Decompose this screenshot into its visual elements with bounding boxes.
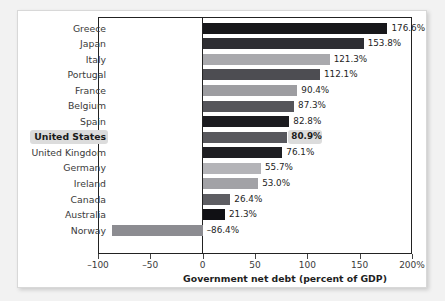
x-tick (255, 254, 256, 259)
bar-row: United States80.9% (18, 129, 428, 145)
chart-figure-panel: Greece176.6%Japan153.8%Italy121.3%Portug… (17, 10, 427, 288)
bar (203, 147, 283, 158)
bar-value-label: 90.4% (301, 83, 329, 99)
bar (203, 178, 258, 189)
bar-row: United Kingdom76.1% (18, 145, 428, 161)
bar (203, 194, 231, 205)
bar-value-label: –86.4% (207, 223, 239, 239)
bar (203, 69, 320, 80)
x-tick (150, 254, 151, 259)
category-label: Norway (0, 223, 106, 239)
bar-row: France90.4% (18, 83, 428, 99)
bar-row: Belgium87.3% (18, 98, 428, 114)
x-tick (98, 254, 99, 259)
bar-value-label: 80.9% (291, 129, 322, 145)
x-tick-label: 100 (299, 260, 316, 270)
category-label: France (0, 83, 106, 99)
bar (203, 23, 388, 34)
bar-row: Portugal112.1% (18, 67, 428, 83)
x-tick (307, 254, 308, 259)
bar (203, 85, 298, 96)
bar (203, 101, 294, 112)
bar-row: Norway–86.4% (18, 223, 428, 239)
bar-value-label: 21.3% (229, 207, 257, 223)
category-label: Italy (0, 52, 106, 68)
x-tick-label: –50 (142, 260, 158, 270)
bar (203, 209, 225, 220)
x-tick-label: 150 (351, 260, 368, 270)
category-label: Greece (0, 21, 106, 37)
category-label: Ireland (0, 176, 106, 192)
bar-value-label: 121.3% (334, 52, 368, 68)
bar-row: Spain82.8% (18, 114, 428, 130)
bar-row: Japan153.8% (18, 36, 428, 52)
bar-row: Germany55.7% (18, 160, 428, 176)
bar (203, 38, 364, 49)
category-label: Belgium (0, 98, 106, 114)
x-tick (360, 254, 361, 259)
category-label: Germany (0, 160, 106, 176)
bar-value-label: 53.0% (262, 176, 290, 192)
x-tick (412, 254, 413, 259)
x-axis-title-text: Government net debt (percent of GDP) (183, 273, 387, 284)
category-label: Australia (0, 207, 106, 223)
category-label: Japan (0, 36, 106, 52)
bar-value-label: 112.1% (324, 67, 358, 83)
bar-chart-plot: Greece176.6%Japan153.8%Italy121.3%Portug… (18, 11, 428, 289)
bar-row: Greece176.6% (18, 21, 428, 37)
bar-value-label: 82.8% (293, 114, 321, 130)
bar-value-label: 26.4% (234, 192, 262, 208)
category-label: United Kingdom (0, 145, 106, 161)
bar (203, 116, 290, 127)
x-tick-label: –100 (87, 260, 109, 270)
category-label: Canada (0, 192, 106, 208)
x-tick-label: 50 (249, 260, 260, 270)
bar-row: Italy121.3% (18, 52, 428, 68)
bar-value-label: 55.7% (265, 160, 293, 176)
bar (203, 54, 330, 65)
bar (112, 225, 202, 236)
x-tick-label: 200% (399, 260, 425, 270)
category-label: United States (0, 129, 106, 145)
category-label: Portugal (0, 67, 106, 83)
bar-value-label: 87.3% (298, 98, 326, 114)
x-tick-label: 0 (200, 260, 206, 270)
x-axis-title: Government net debt (percent of GDP) (18, 273, 428, 284)
bar (203, 163, 261, 174)
x-tick (203, 254, 204, 259)
bar-value-label: 153.8% (368, 36, 402, 52)
bar-value-label: 76.1% (286, 145, 314, 161)
category-label: Spain (0, 114, 106, 130)
bar-value-label: 176.6% (392, 21, 426, 37)
bar-row: Canada26.4% (18, 192, 428, 208)
bar-row: Australia21.3% (18, 207, 428, 223)
bar (203, 132, 288, 143)
bar-row: Ireland53.0% (18, 176, 428, 192)
